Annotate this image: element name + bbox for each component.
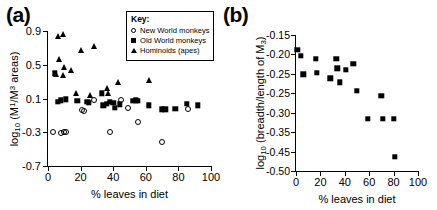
- filled-square-icon: [131, 38, 140, 43]
- legend-label-old-world-monkeys: Old World monkeys: [140, 36, 206, 46]
- y-tick: [43, 31, 48, 32]
- data-point-square: [391, 116, 396, 121]
- y-tick-label: -0.45: [266, 146, 290, 157]
- data-point-square: [135, 98, 140, 103]
- figure-container: (a) % leaves in diet log10 (M1/M3 areas)…: [0, 0, 437, 210]
- data-point-open-circle: [50, 129, 56, 135]
- data-point-square: [75, 98, 80, 103]
- plot-b-data-area: [296, 35, 418, 171]
- y-tick-label: -0.3: [22, 127, 41, 138]
- filled-triangle-icon: [131, 48, 140, 53]
- data-point-square: [343, 67, 348, 72]
- data-point-open-circle: [159, 139, 165, 145]
- x-tick-label: 60: [140, 172, 152, 183]
- data-point-square: [313, 56, 318, 61]
- panel-b: (b) % leaves in diet log10 (breadth/leng…: [219, 0, 437, 210]
- x-tick-label: 60: [363, 177, 375, 188]
- data-point-square: [365, 116, 370, 121]
- y-tick-label: -0.25: [266, 88, 290, 99]
- data-point-triangle: [115, 79, 121, 85]
- y-tick: [43, 65, 48, 66]
- data-point-square: [327, 75, 332, 80]
- data-point-square: [195, 103, 200, 108]
- y-tick: [291, 74, 296, 75]
- y-tick-label: 0.1: [26, 93, 41, 104]
- panel-b-label: (b): [223, 4, 248, 25]
- y-tick-label: 0.5: [26, 59, 41, 70]
- x-tick-label: 40: [339, 177, 351, 188]
- data-point-triangle: [146, 77, 152, 83]
- data-point-triangle: [61, 64, 67, 70]
- data-point-square: [298, 53, 303, 58]
- data-point-open-circle: [135, 119, 141, 125]
- y-tick: [43, 99, 48, 100]
- data-point-square: [379, 93, 384, 98]
- x-tick-label: 100: [202, 172, 220, 183]
- y-tick-label: -0.50: [266, 166, 290, 177]
- data-point-square: [295, 47, 300, 52]
- data-point-square: [301, 72, 306, 77]
- x-axis-title-b: % leaves in diet: [318, 193, 395, 205]
- scatter-plot-b: % leaves in diet log10 (breadth/length o…: [295, 35, 418, 172]
- legend-title: Key:: [131, 15, 209, 25]
- data-point-triangle: [60, 31, 66, 37]
- data-point-square: [314, 70, 319, 75]
- data-point-open-circle: [185, 106, 191, 112]
- panel-a: (a) % leaves in diet log10 (M1/M3 areas)…: [0, 0, 219, 210]
- y-tick-label: -0.35: [266, 127, 290, 138]
- y-tick: [43, 132, 48, 133]
- y-tick: [43, 166, 48, 167]
- data-point-triangle: [78, 47, 84, 53]
- data-point-triangle: [56, 56, 62, 62]
- legend-item-new-world-monkeys: New World monkeys: [131, 26, 209, 36]
- x-tick-label: 100: [409, 177, 427, 188]
- data-point-square: [63, 97, 68, 102]
- legend-label-new-world-monkeys: New World monkeys: [140, 26, 210, 36]
- data-point-square: [99, 91, 104, 96]
- data-point-triangle: [53, 71, 59, 77]
- open-circle-icon: [131, 28, 140, 33]
- data-point-square: [354, 88, 359, 93]
- data-point-square: [184, 101, 189, 106]
- y-tick-label: -0.15: [266, 30, 290, 41]
- legend-box: Key: New World monkeys Old World monkeys…: [126, 11, 214, 61]
- x-axis-title-a: % leaves in diet: [91, 188, 168, 200]
- data-point-square: [86, 100, 91, 105]
- y-tick-label: -0.7: [22, 161, 41, 172]
- data-point-square: [172, 106, 177, 111]
- y-tick-label: -0.20: [266, 49, 290, 60]
- data-point-open-circle: [63, 129, 69, 135]
- y-tick-label: -0.25: [266, 69, 290, 80]
- x-tick-label: 40: [107, 172, 119, 183]
- data-point-square: [351, 61, 356, 66]
- y-tick: [291, 54, 296, 55]
- data-point-open-circle: [107, 129, 113, 135]
- data-point-triangle: [105, 90, 111, 96]
- data-point-square: [334, 56, 339, 61]
- data-point-square: [380, 116, 385, 121]
- data-point-triangle: [73, 90, 79, 96]
- legend-label-hominoids: Hominoids (apes): [140, 46, 200, 56]
- y-tick-label: 0.9: [26, 26, 41, 37]
- y-axis-title-a: log10 (M1/M3 areas): [8, 4, 22, 99]
- data-point-triangle: [91, 43, 97, 49]
- data-point-triangle: [87, 92, 93, 98]
- x-tick-label: 80: [387, 177, 399, 188]
- y-tick: [291, 35, 296, 36]
- data-point-square: [146, 103, 151, 108]
- legend-item-old-world-monkeys: Old World monkeys: [131, 36, 209, 46]
- data-point-square: [337, 80, 342, 85]
- data-point-square: [335, 66, 340, 71]
- legend-item-hominoids: Hominoids (apes): [131, 46, 209, 56]
- y-tick: [291, 171, 296, 172]
- x-tick-label: 0: [45, 172, 51, 183]
- x-tick-label: 20: [314, 177, 326, 188]
- y-tick: [291, 132, 296, 133]
- y-tick: [291, 152, 296, 153]
- data-point-triangle: [60, 72, 66, 78]
- data-point-open-circle: [125, 105, 131, 111]
- y-tick: [291, 113, 296, 114]
- x-tick-label: 80: [172, 172, 184, 183]
- data-point-triangle: [68, 67, 74, 73]
- data-point-square: [392, 154, 397, 159]
